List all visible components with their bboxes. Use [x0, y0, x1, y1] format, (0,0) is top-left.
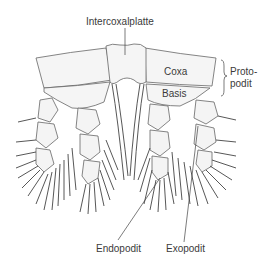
label-exopodit: Exopodit: [166, 243, 205, 254]
label-endopodit: Endopodit: [96, 243, 141, 254]
label-coxa: Coxa: [164, 66, 187, 77]
intercoxal-plate: [106, 44, 146, 84]
label-protopodit-line1: Proto-: [230, 66, 257, 77]
limb-diagram: [0, 0, 269, 270]
left-coxa: [36, 48, 112, 88]
label-protopodit-line2: podit: [230, 78, 252, 89]
label-basis: Basis: [162, 88, 186, 99]
label-intercoxalplatte: Intercoxalplatte: [86, 16, 154, 27]
